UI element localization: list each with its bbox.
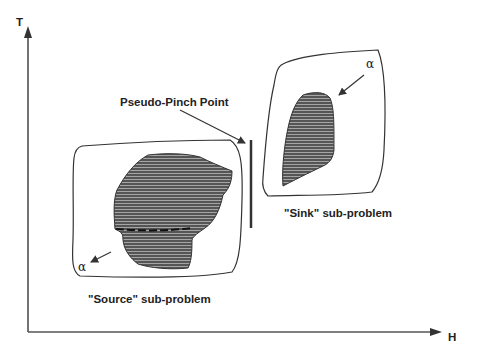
source-alpha-label: α xyxy=(78,260,86,274)
sink-alpha-arrow-icon xyxy=(339,75,364,95)
source-hatched-area xyxy=(114,154,232,269)
sink-label: "Sink" sub-problem xyxy=(284,207,392,219)
pinch-arrow-icon xyxy=(180,110,245,143)
sink-hatched-area xyxy=(283,93,334,186)
source-label: "Source" sub-problem xyxy=(88,293,211,305)
source-alpha-arrow-icon xyxy=(91,252,111,262)
pinch-label: Pseudo-Pinch Point xyxy=(120,96,229,108)
y-axis-arrowhead-icon xyxy=(24,26,32,38)
x-axis-label: H xyxy=(448,331,456,343)
sink-region: α xyxy=(263,50,385,196)
diagram-canvas: T H α "Sink" sub-problem Pseudo-Pinch Po… xyxy=(0,0,480,358)
x-axis xyxy=(28,328,442,336)
y-axis xyxy=(24,26,32,332)
source-region: α xyxy=(73,140,243,277)
x-axis-arrowhead-icon xyxy=(430,328,442,336)
y-axis-label: T xyxy=(16,16,23,28)
sink-alpha-label: α xyxy=(366,57,374,71)
